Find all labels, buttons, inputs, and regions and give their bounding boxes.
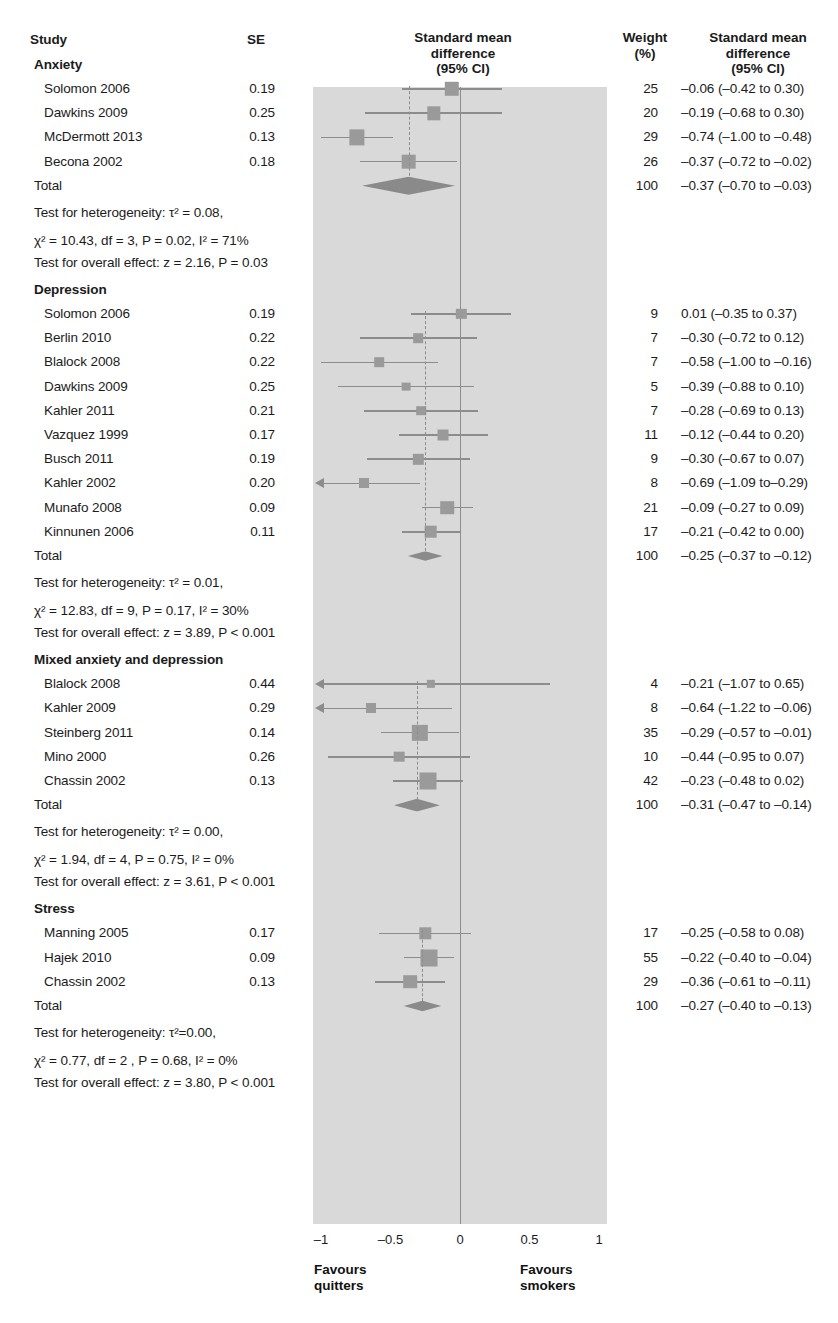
ci-left-arrow — [315, 703, 324, 713]
row-se-value: 0.17 — [215, 926, 275, 940]
row-weight-value: 29 — [612, 975, 658, 989]
row-effect-value: –0.23 (–0.48 to 0.02) — [681, 774, 804, 788]
row-study-name: Kahler 2002 — [44, 476, 116, 490]
row-effect-value: –0.30 (–0.67 to 0.07) — [681, 452, 804, 466]
row-weight-value: 9 — [612, 307, 658, 321]
row-study-name: Berlin 2010 — [44, 331, 111, 345]
effect-marker — [444, 82, 458, 96]
row-weight-value: 7 — [612, 355, 658, 369]
row-weight-value: 8 — [612, 701, 658, 715]
row-se-value: 0.19 — [215, 307, 275, 321]
row-effect-value: –0.44 (–0.95 to 0.07) — [681, 750, 804, 764]
favours-smokers-line2: smokers — [520, 1278, 576, 1294]
row-effect-value: –0.58 (–1.00 to –0.16) — [681, 355, 812, 369]
effect-marker — [359, 478, 369, 488]
row-study-name: Kinnunen 2006 — [44, 525, 134, 539]
pooled-estimate-dashed-line — [409, 86, 410, 186]
row-se-value: 0.21 — [215, 404, 275, 418]
row-weight-value: 9 — [612, 452, 658, 466]
pooled-estimate-dashed-line — [425, 311, 426, 556]
row-study-name: Blalock 2008 — [44, 677, 120, 691]
heterogeneity-line-2: χ² = 0.77, df = 2 , P = 0.68, I² = 0% — [34, 1054, 238, 1068]
row-se-value: 0.09 — [215, 951, 275, 965]
row-study-name: Kahler 2011 — [44, 404, 115, 418]
row-se-value: 0.13 — [215, 130, 275, 144]
effect-marker — [366, 703, 376, 713]
row-effect-value: –0.69 (–1.09 to–0.29) — [681, 476, 808, 490]
row-total-label: Total — [34, 798, 62, 812]
heterogeneity-line-1: Test for heterogeneity: τ² = 0.00, — [34, 825, 223, 839]
row-se-value: 0.19 — [215, 452, 275, 466]
favours-quitters-label: Favoursquitters — [314, 1262, 367, 1294]
effect-marker — [438, 430, 449, 441]
row-weight-value: 4 — [612, 677, 658, 691]
row-se-value: 0.22 — [215, 355, 275, 369]
row-study-name: Becona 2002 — [44, 155, 122, 169]
row-study-name: Dawkins 2009 — [44, 380, 128, 394]
ci-line — [323, 683, 550, 685]
row-total-effect: –0.37 (–0.70 to –0.03) — [681, 179, 812, 193]
row-se-value: 0.20 — [215, 476, 275, 490]
row-total-effect: –0.27 (–0.40 to –0.13) — [681, 999, 812, 1013]
axis-tick-1: 1 — [595, 1232, 602, 1247]
row-study-name: Solomon 2006 — [44, 307, 130, 321]
effect-marker — [375, 358, 385, 368]
row-weight-value: 35 — [612, 726, 658, 740]
axis-tick-0p5: 0.5 — [520, 1232, 538, 1247]
row-se-value: 0.19 — [215, 82, 275, 96]
row-effect-value: –0.19 (–0.68 to 0.30) — [681, 106, 804, 120]
effect-marker — [420, 928, 431, 939]
row-study-name: Steinberg 2011 — [44, 726, 133, 740]
row-effect-value: –0.39 (–0.88 to 0.10) — [681, 380, 804, 394]
row-total-weight: 100 — [612, 999, 658, 1013]
effect-marker — [413, 333, 423, 343]
effect-marker — [412, 724, 428, 740]
effect-marker — [393, 751, 404, 762]
overall-effect-line: Test for overall effect: z = 3.89, P < 0… — [34, 626, 275, 640]
heterogeneity-line-1: Test for heterogeneity: τ² = 0.01, — [34, 576, 223, 590]
row-effect-value: –0.74 (–1.00 to –0.48) — [681, 130, 812, 144]
row-study-name: Munafo 2008 — [44, 501, 122, 515]
row-se-value: 0.09 — [215, 501, 275, 515]
row-effect-value: –0.28 (–0.69 to 0.13) — [681, 404, 804, 418]
pooled-estimate-dashed-line — [422, 930, 423, 1006]
row-effect-value: –0.37 (–0.72 to –0.02) — [681, 155, 812, 169]
effect-marker — [413, 454, 423, 464]
row-weight-value: 26 — [612, 155, 658, 169]
effect-marker — [441, 501, 455, 515]
row-study-name: Chassin 2002 — [44, 774, 125, 788]
row-total-label: Total — [34, 179, 62, 193]
row-effect-value: –0.64 (–1.22 to –0.06) — [681, 701, 812, 715]
effect-marker — [424, 525, 437, 538]
group-label-anxiety: Anxiety — [34, 58, 82, 72]
row-effect-value: –0.21 (–0.42 to 0.00) — [681, 525, 804, 539]
row-study-name: McDermott 2013 — [44, 130, 142, 144]
row-weight-value: 20 — [612, 106, 658, 120]
row-weight-value: 7 — [612, 331, 658, 345]
forest-rows-layer: AnxietySolomon 20060.1925–0.06 (–0.42 to… — [0, 0, 838, 1323]
row-weight-value: 7 — [612, 404, 658, 418]
row-effect-value: –0.12 (–0.44 to 0.20) — [681, 428, 804, 442]
row-se-value: 0.22 — [215, 331, 275, 345]
row-effect-value: –0.06 (–0.42 to 0.30) — [681, 82, 804, 96]
effect-marker — [427, 680, 435, 688]
row-se-value: 0.25 — [215, 106, 275, 120]
row-weight-value: 5 — [612, 380, 658, 394]
favours-smokers-line1: Favours — [520, 1262, 576, 1278]
row-weight-value: 42 — [612, 774, 658, 788]
row-se-value: 0.44 — [215, 677, 275, 691]
row-study-name: Busch 2011 — [44, 452, 113, 466]
heterogeneity-line-1: Test for heterogeneity: τ² = 0.08, — [34, 206, 223, 220]
effect-marker — [427, 107, 440, 120]
group-label-depression: Depression — [34, 283, 107, 297]
row-effect-value: –0.22 (–0.40 to –0.04) — [681, 951, 812, 965]
row-weight-value: 21 — [612, 501, 658, 515]
row-se-value: 0.13 — [215, 774, 275, 788]
axis-tick-neg0p5: –0.5 — [378, 1232, 403, 1247]
row-weight-value: 17 — [612, 926, 658, 940]
row-total-weight: 100 — [612, 798, 658, 812]
heterogeneity-line-1: Test for heterogeneity: τ²=0.00, — [34, 1026, 216, 1040]
overall-effect-line: Test for overall effect: z = 3.80, P < 0… — [34, 1076, 275, 1090]
overall-effect-line: Test for overall effect: z = 2.16, P = 0… — [34, 256, 268, 270]
row-se-value: 0.18 — [215, 155, 275, 169]
